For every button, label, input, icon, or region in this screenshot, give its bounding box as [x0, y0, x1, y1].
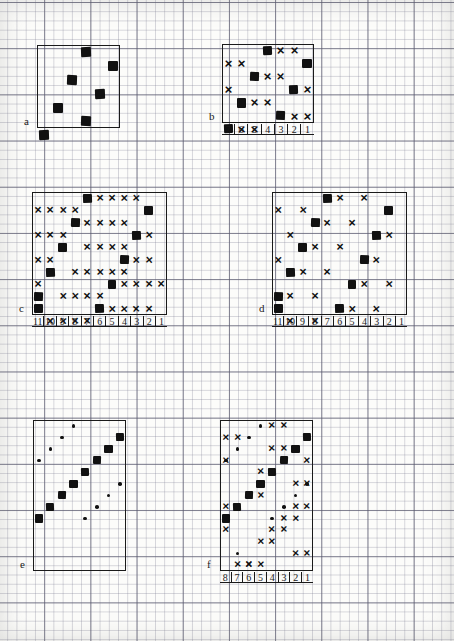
x-mark: × — [106, 241, 119, 254]
x-mark: × — [130, 192, 143, 205]
x-mark: × — [300, 83, 314, 97]
x-mark: × — [266, 536, 278, 548]
filled-square — [303, 433, 312, 442]
x-mark: × — [56, 229, 69, 242]
x-mark: × — [105, 265, 118, 278]
panel-d-cells: ×××××××××××××××××××××× — [272, 192, 407, 315]
filled-square — [360, 255, 369, 264]
x-mark: × — [32, 253, 45, 266]
axis-label: 6 — [334, 316, 346, 327]
x-mark: × — [44, 204, 57, 217]
filled-square — [298, 243, 307, 252]
axis-label: 3 — [275, 124, 288, 135]
x-mark: × — [231, 559, 243, 571]
x-mark: × — [266, 443, 278, 455]
filled-square — [46, 267, 55, 276]
filled-square — [237, 98, 246, 107]
panel-d: ××××××××××××××××××××××d1110987654321 — [272, 192, 407, 315]
dot — [282, 505, 285, 508]
filled-square — [108, 61, 118, 71]
x-mark: × — [56, 204, 69, 217]
x-mark: × — [370, 253, 383, 266]
x-mark: × — [32, 204, 45, 217]
axis-label: 3 — [279, 572, 291, 583]
axis-label: 10 — [44, 316, 56, 327]
axis-label: 4 — [119, 316, 131, 327]
filled-square — [83, 194, 92, 203]
x-mark: × — [93, 241, 106, 254]
axis-label: 5 — [106, 316, 118, 327]
x-mark: × — [266, 420, 278, 432]
panel-c-cells: ××××××××××××××××××××××××××××××××××××××××… — [32, 192, 167, 315]
x-mark: × — [346, 303, 359, 316]
panel-c-axis-labels: 1110987654321 — [32, 316, 167, 327]
x-mark: × — [220, 524, 232, 536]
x-mark: × — [106, 216, 119, 229]
x-mark: × — [220, 431, 232, 443]
x-mark: × — [278, 443, 290, 455]
filled-square — [279, 456, 288, 465]
filled-square — [274, 304, 283, 313]
axis-label: 1 — [301, 124, 313, 135]
x-mark: × — [287, 109, 300, 122]
x-mark: × — [261, 70, 275, 84]
axis-label: 8 — [309, 316, 321, 327]
axis-label: 7 — [222, 124, 235, 135]
axis-label: 5 — [248, 124, 261, 135]
axis-label: 3 — [371, 316, 383, 327]
filled-square — [67, 75, 77, 85]
filled-square — [46, 503, 55, 512]
x-mark: × — [382, 228, 395, 241]
filled-square — [69, 480, 77, 488]
filled-square — [58, 491, 67, 500]
filled-square — [80, 116, 90, 126]
x-mark: × — [289, 513, 301, 525]
filled-square — [34, 292, 43, 301]
filled-square — [81, 468, 90, 477]
filled-square — [144, 206, 153, 215]
filled-square — [372, 230, 381, 239]
panel-letter-e: e — [20, 558, 25, 570]
dot — [95, 505, 98, 508]
panel-e-cells — [33, 420, 126, 571]
x-mark: × — [231, 431, 243, 443]
axis-label: 1 — [396, 316, 407, 327]
x-mark: × — [278, 524, 290, 536]
axis-label: 5 — [346, 316, 358, 327]
x-mark: × — [142, 228, 155, 241]
panel-b-cells: ×××××××××××××× — [222, 44, 314, 123]
filled-square — [58, 243, 67, 252]
x-mark: × — [346, 216, 359, 229]
x-mark: × — [130, 253, 143, 266]
panel-b: ××××××××××××××b7654321 — [222, 44, 314, 123]
filled-square — [35, 514, 43, 522]
x-mark: × — [143, 303, 156, 316]
filled-square — [108, 280, 117, 289]
x-mark: × — [235, 57, 249, 71]
filled-square — [116, 433, 125, 442]
panel-letter-c: c — [19, 302, 24, 314]
filled-square — [92, 456, 101, 465]
filled-square — [286, 267, 295, 276]
axis-label: 6 — [94, 316, 106, 327]
dot — [49, 447, 52, 450]
axis-label: 7 — [232, 572, 244, 583]
dot — [294, 494, 297, 497]
x-mark: × — [32, 278, 45, 291]
axis-label: 10 — [284, 316, 296, 327]
axis-label: 2 — [290, 572, 302, 583]
filled-square — [39, 130, 49, 140]
x-mark: × — [333, 241, 346, 254]
filled-square — [310, 218, 319, 227]
x-mark: × — [142, 253, 155, 266]
panel-b-axis-labels: 7654321 — [222, 124, 314, 135]
axis-label: 7 — [82, 316, 94, 327]
x-mark: × — [93, 266, 106, 279]
axis-label: 2 — [144, 316, 156, 327]
filled-square — [233, 503, 242, 512]
axis-label: 9 — [57, 316, 69, 327]
filled-square — [289, 85, 299, 95]
x-mark: × — [155, 278, 168, 291]
axis-label: 3 — [131, 316, 143, 327]
filled-square — [95, 304, 104, 313]
